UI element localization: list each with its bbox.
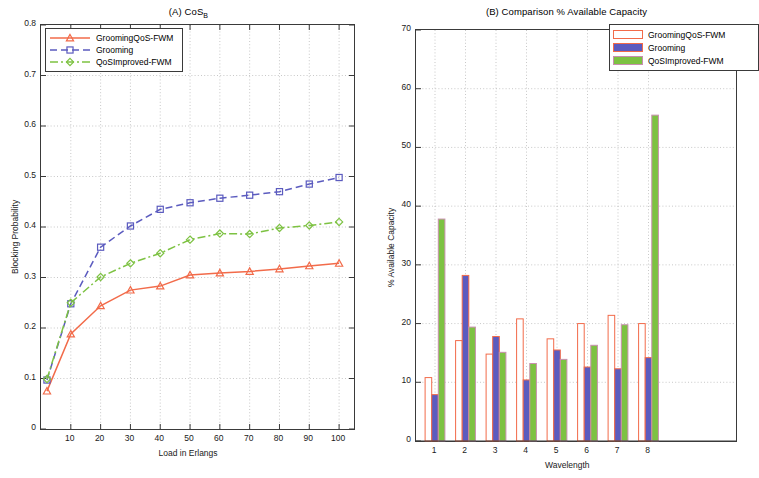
- panel-b-x-tick: 8: [636, 445, 660, 455]
- panel-b-x-tick: 6: [575, 445, 599, 455]
- panel-b-legend: GroomingQoS-FWMGroomingQoSImproved-FWM: [609, 24, 759, 71]
- panel-a: (A) CoSB 00.10.20.30.40.50.60.70.8 10203…: [0, 0, 377, 478]
- panel-a-legend-label: QoSImproved-FWM: [96, 56, 172, 68]
- panel-a-legend-item: QoSImproved-FWM: [49, 56, 178, 68]
- bar: [462, 275, 469, 441]
- panel-a-title-subscript: B: [203, 12, 208, 19]
- panel-a-y-tick: 0.5: [8, 170, 36, 180]
- bar: [432, 395, 439, 441]
- panel-a-title: (A) CoSB: [0, 6, 377, 19]
- panel-b-title: (B) Comparison % Available Capacity: [378, 6, 755, 17]
- bar: [469, 327, 476, 441]
- bar: [456, 341, 463, 441]
- panel-a-y-tick: 0.8: [8, 18, 36, 28]
- panel-a-y-tick: 0.1: [8, 372, 36, 382]
- panel-b-y-tick: 10: [385, 375, 411, 385]
- panel-b-y-tick: 20: [385, 317, 411, 327]
- panel-a-x-tick: 90: [294, 433, 322, 443]
- panel-b-y-tick: 60: [385, 82, 411, 92]
- panel-a-title-main: (A) CoS: [169, 6, 203, 17]
- panel-a-plot-area: [40, 24, 355, 430]
- panel-a-legend: GroomingQoS-FWMGroomingQoSImproved-FWM: [45, 28, 183, 72]
- panel-a-y-tick: 0.6: [8, 119, 36, 129]
- bar: [591, 345, 598, 441]
- panel-b-x-tick: 3: [483, 445, 507, 455]
- panel-a-y-tick: 0.2: [8, 321, 36, 331]
- panel-b-y-tick: 50: [385, 140, 411, 150]
- bar: [499, 352, 506, 441]
- bar: [621, 325, 628, 441]
- bar: [560, 359, 567, 441]
- panel-b-x-tick: 5: [544, 445, 568, 455]
- bar: [493, 336, 500, 441]
- bar: [578, 324, 585, 441]
- panel-b-x-tick: 4: [514, 445, 538, 455]
- panel-b-y-axis-label: % Available Capacity: [386, 207, 396, 286]
- diamond-marker: [49, 56, 91, 68]
- legend-color-swatch: [613, 43, 643, 52]
- panel-b-x-tick: 2: [453, 445, 477, 455]
- bar: [639, 324, 646, 441]
- bar: [615, 369, 622, 441]
- panel-a-x-tick: 50: [175, 433, 203, 443]
- bar: [554, 350, 561, 441]
- bar: [438, 219, 445, 441]
- bar: [584, 367, 591, 441]
- panel-b-y-tick: 0: [385, 434, 411, 444]
- panel-a-y-axis-label: Blocking Probability: [10, 200, 20, 274]
- panel-b-legend-item: Grooming: [613, 41, 754, 54]
- bar: [608, 315, 615, 441]
- panel-b: (B) Comparison % Available Capacity 0102…: [378, 0, 755, 478]
- bar: [517, 319, 524, 441]
- panel-b-plot-area: [415, 29, 737, 442]
- bar: [645, 358, 652, 441]
- panel-b-x-axis-label: Wavelength: [545, 460, 590, 470]
- panel-a-x-tick: 40: [145, 433, 173, 443]
- panel-b-legend-label: Grooming: [648, 42, 685, 54]
- panel-a-x-tick: 30: [115, 433, 143, 443]
- panel-a-legend-label: GroomingQoS-FWM: [96, 32, 173, 44]
- legend-color-swatch: [613, 30, 643, 39]
- panel-a-x-tick: 20: [86, 433, 114, 443]
- square-marker: [49, 44, 91, 56]
- panel-a-y-tick: 0.7: [8, 69, 36, 79]
- panel-b-legend-item: QoSImproved-FWM: [613, 54, 754, 67]
- panel-b-svg: [416, 30, 736, 441]
- panel-a-svg: [41, 25, 354, 429]
- panel-b-x-tick: 1: [422, 445, 446, 455]
- panel-a-legend-item: GroomingQoS-FWM: [49, 32, 178, 44]
- panel-b-legend-item: GroomingQoS-FWM: [613, 28, 754, 41]
- panel-b-legend-label: GroomingQoS-FWM: [648, 29, 725, 41]
- panel-a-y-tick: 0: [8, 422, 36, 432]
- legend-color-swatch: [613, 56, 643, 65]
- panel-a-x-tick: 80: [264, 433, 292, 443]
- bar: [530, 363, 537, 441]
- bar: [652, 115, 659, 441]
- panel-a-legend-item: Grooming: [49, 44, 178, 56]
- triangle-marker: [49, 32, 91, 44]
- panel-a-x-tick: 100: [324, 433, 352, 443]
- panel-a-x-tick: 60: [205, 433, 233, 443]
- bar: [425, 378, 432, 441]
- bar: [547, 339, 554, 441]
- panel-a-x-tick: 70: [235, 433, 263, 443]
- bar: [523, 380, 530, 441]
- panel-a-x-axis-label: Load in Erlangs: [159, 448, 218, 458]
- bar: [486, 354, 493, 441]
- panel-a-legend-label: Grooming: [96, 44, 133, 56]
- panel-b-y-tick: 70: [385, 23, 411, 33]
- panel-b-legend-label: QoSImproved-FWM: [648, 55, 724, 67]
- panel-b-x-tick: 7: [605, 445, 629, 455]
- panel-a-x-tick: 10: [56, 433, 84, 443]
